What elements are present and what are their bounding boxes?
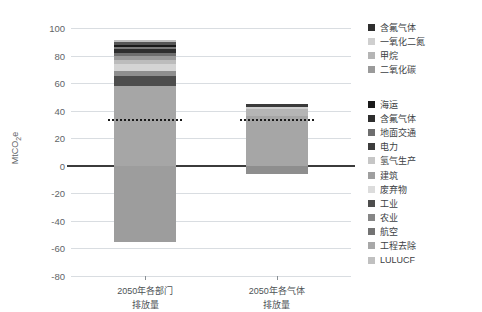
bar-segment[interactable] xyxy=(114,71,176,77)
bar-segment[interactable] xyxy=(114,53,176,56)
bar-segment[interactable] xyxy=(114,76,176,86)
legend-item[interactable]: 二氧化碳 xyxy=(368,63,425,77)
gridline-20 xyxy=(71,138,351,139)
legend-item[interactable]: 甲烷 xyxy=(368,48,425,62)
y-tick-label-60: 60 xyxy=(54,78,65,89)
y-tick-label-100: 100 xyxy=(49,23,65,34)
zero-axis-line xyxy=(67,165,355,167)
x-tick-2 xyxy=(277,276,278,280)
bar-segment[interactable] xyxy=(114,40,176,42)
legend-item-label: 建筑 xyxy=(380,169,398,182)
gridline-60 xyxy=(71,83,351,84)
legend-item-label: 二氧化碳 xyxy=(380,63,416,76)
net-emission-dotted-line xyxy=(240,119,314,121)
legend-swatch-icon xyxy=(368,157,375,164)
legend-swatch-icon xyxy=(368,242,375,249)
y-tick-label--40: -40 xyxy=(51,215,65,226)
gridline-80 xyxy=(71,56,351,57)
legend-item-label: 地面交通 xyxy=(380,126,416,139)
y-tick-label--20: -20 xyxy=(51,188,65,199)
legend-item-label: 航空 xyxy=(380,225,398,238)
legend-item-label: 电力 xyxy=(380,140,398,153)
plot-area: 100806040200-20-40-60-80 xyxy=(71,28,351,276)
bar-segment[interactable] xyxy=(114,45,176,47)
bar-segment[interactable] xyxy=(114,56,176,60)
legend-swatch-icon xyxy=(368,129,375,136)
y-axis-title: MtCO2e xyxy=(10,132,22,164)
legend-swatch-icon xyxy=(368,24,375,31)
legend-item-label: 工程去除 xyxy=(380,239,416,252)
legend-item[interactable]: 地面交通 xyxy=(368,125,416,139)
legend-item[interactable]: 电力 xyxy=(368,140,416,154)
x-axis-label-line1: 2050年各部门 xyxy=(70,284,220,298)
legend-item[interactable]: 建筑 xyxy=(368,168,416,182)
legend-swatch-icon xyxy=(368,38,375,45)
legend-item-label: 海运 xyxy=(380,98,398,111)
bar-segment[interactable] xyxy=(114,60,176,64)
legend-swatch-icon xyxy=(368,214,375,221)
legend-item[interactable]: 航空 xyxy=(368,225,416,239)
legend-item[interactable]: 氢气生产 xyxy=(368,154,416,168)
legend-item[interactable]: 工程去除 xyxy=(368,239,416,253)
legend-item[interactable]: LULUCF xyxy=(368,253,416,267)
y-tick-label--80: -80 xyxy=(51,271,65,282)
y-tick-label--60: -60 xyxy=(51,243,65,254)
bar-2[interactable] xyxy=(246,28,308,276)
gas-legend: 含氟气体一氧化二氮甲烷二氧化碳 xyxy=(368,20,425,77)
bar-segment[interactable] xyxy=(246,166,308,174)
legend-item[interactable]: 废弃物 xyxy=(368,182,416,196)
net-emission-dotted-line xyxy=(108,119,182,121)
gridline--80 xyxy=(71,276,351,277)
legend-item-label: 含氟气体 xyxy=(380,21,416,34)
bar-segment[interactable] xyxy=(246,109,308,116)
bar-segment[interactable] xyxy=(114,64,176,71)
legend-swatch-icon xyxy=(368,172,375,179)
gridline--20 xyxy=(71,193,351,194)
legend-item-label: 工业 xyxy=(380,197,398,210)
legend-swatch-icon xyxy=(368,257,375,264)
legend-item[interactable]: 含氟气体 xyxy=(368,111,416,125)
gridline--40 xyxy=(71,221,351,222)
legend-swatch-icon xyxy=(368,143,375,150)
x-axis-label-line1: 2050年各气体 xyxy=(202,284,352,298)
legend-item-label: 废弃物 xyxy=(380,183,407,196)
legend-swatch-icon xyxy=(368,66,375,73)
legend-item[interactable]: 含氟气体 xyxy=(368,20,425,34)
gridline-40 xyxy=(71,111,351,112)
y-tick-label-80: 80 xyxy=(54,50,65,61)
x-axis-label-1: 2050年各部门排放量 xyxy=(70,284,220,312)
x-axis-label-line2: 排放量 xyxy=(202,298,352,312)
y-tick-label-40: 40 xyxy=(54,105,65,116)
legend-item-label: 含氟气体 xyxy=(380,112,416,125)
x-axis-label-2: 2050年各气体排放量 xyxy=(202,284,352,312)
bar-1[interactable] xyxy=(114,28,176,276)
y-tick-label-20: 20 xyxy=(54,133,65,144)
sector-legend: 海运含氟气体地面交通电力氢气生产建筑废弃物工业农业航空工程去除LULUCF xyxy=(368,97,416,267)
bar-segment[interactable] xyxy=(114,49,176,52)
legend-item-label: 氢气生产 xyxy=(380,154,416,167)
legend-item[interactable]: 工业 xyxy=(368,196,416,210)
y-axis-title-sub: 2 xyxy=(15,137,22,141)
legend-swatch-icon xyxy=(368,52,375,59)
bar-segment[interactable] xyxy=(246,104,308,107)
legend-swatch-icon xyxy=(368,200,375,207)
bar-segment[interactable] xyxy=(114,47,176,50)
bar-segment[interactable] xyxy=(114,86,176,166)
x-tick-1 xyxy=(145,276,146,280)
gridline--60 xyxy=(71,248,351,249)
bar-segment[interactable] xyxy=(246,107,308,110)
bar-segment[interactable] xyxy=(114,42,176,44)
bar-segment[interactable] xyxy=(114,166,176,242)
bar-segment[interactable] xyxy=(246,116,308,166)
legend-item-label: LULUCF xyxy=(380,255,415,265)
y-tick-label-0: 0 xyxy=(60,160,65,171)
gridline-100 xyxy=(71,28,351,29)
legend-item[interactable]: 海运 xyxy=(368,97,416,111)
y-axis-title-suffix: e xyxy=(10,132,20,137)
y-axis-title-prefix: MtCO xyxy=(10,141,20,165)
legend-item[interactable]: 农业 xyxy=(368,211,416,225)
legend-item-label: 农业 xyxy=(380,211,398,224)
legend-item-label: 甲烷 xyxy=(380,49,398,62)
legend-item[interactable]: 一氧化二氮 xyxy=(368,34,425,48)
